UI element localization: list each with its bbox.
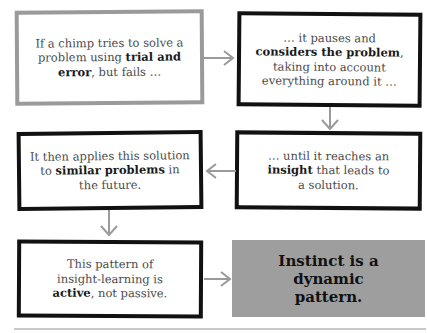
arrow-right-icon: [204, 271, 232, 287]
step-box-trial-and-error: If a chimp tries to solve a problem usin…: [15, 9, 205, 105]
arrow-right-icon: [204, 50, 236, 66]
step-text: If a chimp tries to solve a problem usin…: [34, 35, 184, 80]
arrow-down-icon: [321, 107, 339, 131]
step-box-insight: … until it reaches an insight that leads…: [235, 130, 423, 210]
arrow-left-icon: [204, 163, 236, 179]
step-box-considers-problem: … it pauses and considers the problem, t…: [237, 11, 423, 108]
step-box-similar-problems: It then applies this solution to similar…: [17, 130, 204, 211]
step-text: It then applies this solution to similar…: [30, 148, 190, 193]
step-text: … until it reaches an insight that leads…: [263, 148, 393, 192]
step-text: … it pauses and considers the problem, t…: [254, 30, 405, 89]
conclusion-box: Instinct is a dynamic pattern.: [232, 240, 425, 317]
step-box-active-learning: This pattern of insight-learning is acti…: [17, 240, 203, 319]
conclusion-text: Instinct is a dynamic pattern.: [264, 252, 394, 306]
step-text: This pattern of insight-learning is acti…: [45, 257, 175, 301]
arrow-down-icon: [100, 210, 118, 238]
divider: [14, 328, 426, 330]
